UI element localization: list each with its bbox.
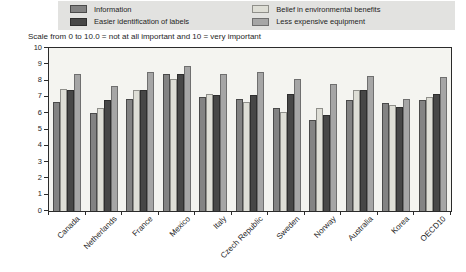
bar (396, 107, 403, 211)
y-axis: 012345678910 (0, 0, 48, 272)
bar (353, 90, 360, 211)
bar (67, 90, 74, 211)
bar (213, 95, 220, 211)
bar (126, 99, 133, 211)
x-axis-tick-mark (450, 211, 451, 215)
bar (111, 86, 118, 212)
y-axis-tick-label: 8 (2, 76, 42, 84)
bar-group (232, 48, 269, 211)
bar (206, 94, 213, 211)
x-axis-category-label: Canada (56, 215, 81, 240)
legend-item-information: Information (70, 5, 252, 13)
x-axis-category-label: Netherlands (82, 215, 118, 251)
bar (199, 97, 206, 211)
bar (287, 94, 294, 211)
bar (184, 66, 191, 211)
bar (323, 115, 330, 211)
bar (360, 90, 367, 211)
x-axis-category-label: Korea (390, 215, 411, 236)
y-axis-tick-label: 10 (2, 44, 42, 52)
bar (382, 103, 389, 211)
y-axis-tick-label: 3 (2, 158, 42, 166)
x-axis-category-label: OECD10 (419, 215, 447, 243)
y-axis-tick-label: 6 (2, 109, 42, 117)
bar (419, 100, 426, 211)
bar (220, 74, 227, 211)
bar (367, 76, 374, 211)
bar (177, 74, 184, 211)
bar-group (122, 48, 159, 211)
bar (147, 72, 154, 211)
x-axis-category-label: Mexico (168, 215, 192, 239)
bar (426, 97, 433, 211)
plot-area (48, 47, 452, 212)
bar (257, 72, 264, 211)
bar (294, 79, 301, 211)
y-axis-tick-label: 2 (2, 174, 42, 182)
bar (280, 112, 287, 211)
bar (170, 79, 177, 211)
environmental-benefits-swatch-icon (252, 5, 269, 13)
bar (53, 102, 60, 211)
bar (250, 95, 257, 211)
bar (140, 90, 147, 211)
y-axis-tick-label: 0 (2, 207, 42, 215)
bar-group (159, 48, 196, 211)
bar (273, 108, 280, 211)
bar-group (195, 48, 232, 211)
legend-item-label: Information (94, 6, 132, 14)
y-axis-tick-label: 1 (2, 190, 42, 198)
information-swatch-icon (70, 5, 87, 13)
bar (236, 99, 243, 211)
legend: Information Easier identification of lab… (58, 1, 455, 30)
bar (243, 102, 250, 211)
x-axis-labels: CanadaNetherlandsFranceMexicoItalyCzech … (48, 215, 450, 271)
bar-group (268, 48, 305, 211)
scale-note: Scale from 0 to 10.0 = not at all import… (28, 32, 261, 42)
bar (97, 108, 104, 211)
bar (90, 113, 97, 211)
bar (346, 100, 353, 211)
legend-item-label: Easier identification of labels (94, 18, 189, 26)
x-axis-category-label: France (132, 215, 155, 238)
bar (433, 94, 440, 211)
bar (330, 84, 337, 211)
bar-group (414, 48, 451, 211)
legend-item-environmental-benefits: Belief in environmental benefits (252, 5, 449, 13)
legend-item-easier-identification: Easier identification of labels (70, 18, 252, 26)
bar-group (341, 48, 378, 211)
legend-item-label: Less expensive equipment (276, 18, 365, 26)
less-expensive-swatch-icon (252, 18, 269, 26)
bar (163, 74, 170, 211)
bar (309, 120, 316, 211)
bar-group (305, 48, 342, 211)
legend-item-label: Belief in environmental benefits (276, 6, 380, 14)
x-axis-category-label: Australia (347, 215, 375, 243)
bar (60, 89, 67, 211)
y-axis-tick-label: 9 (2, 60, 42, 68)
importance-bar-chart-figure: Information Easier identification of lab… (0, 0, 466, 272)
bar (440, 77, 447, 211)
x-axis-category-label: Sweden (275, 215, 301, 241)
bar (133, 90, 140, 211)
x-axis-category-label: Norway (313, 215, 338, 240)
bar-group (49, 48, 86, 211)
x-axis-category-label: Italy (212, 215, 228, 231)
bar (389, 105, 396, 211)
y-axis-tick-label: 7 (2, 92, 42, 100)
y-axis-tick-label: 4 (2, 141, 42, 149)
bar (316, 108, 323, 211)
bar (104, 100, 111, 211)
bar (74, 74, 81, 211)
easier-identification-swatch-icon (70, 18, 87, 26)
y-axis-tick-label: 5 (2, 125, 42, 133)
legend-item-less-expensive: Less expensive equipment (252, 18, 449, 26)
bar (403, 99, 410, 211)
bar-group (86, 48, 123, 211)
bar-group (378, 48, 415, 211)
